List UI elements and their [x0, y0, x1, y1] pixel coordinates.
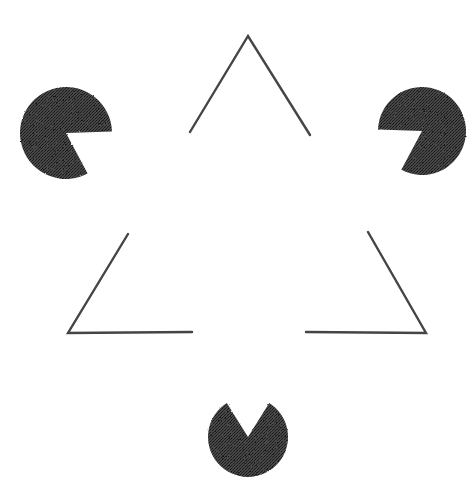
kanizsa-triangle-figure: Illusory contour figure: three black pac…: [0, 0, 467, 480]
figure-canvas: [0, 0, 467, 480]
figure-background: [0, 0, 467, 480]
